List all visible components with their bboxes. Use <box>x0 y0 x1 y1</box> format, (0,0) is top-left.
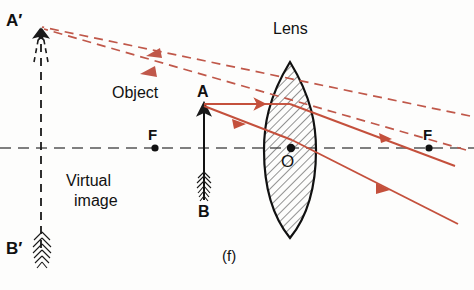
virtual-ray-lower-arrowhead <box>140 66 157 77</box>
virtual-ray-extension-lower <box>44 29 466 150</box>
ray-refracted-lower <box>292 140 458 224</box>
label-image-base: B′ <box>6 240 22 258</box>
label-focus-left: F <box>148 127 157 143</box>
focus-left-dot <box>151 144 158 151</box>
focus-right-dot <box>425 144 432 151</box>
object-arrow-feather <box>197 172 211 201</box>
figure-caption: (f) <box>222 248 236 264</box>
label-object: Object <box>112 84 158 101</box>
lens-ray-diagram: A′ B′ A B Object Lens F F O Virtual imag… <box>0 0 474 290</box>
virtual-image-feather <box>33 232 51 268</box>
label-image-top: A′ <box>6 12 22 30</box>
label-object-base: B <box>198 203 210 220</box>
label-object-top: A <box>197 83 209 100</box>
label-focus-right: F <box>423 127 432 143</box>
optical-center-dot <box>287 144 295 152</box>
label-virtual-image-line1: Virtual <box>66 172 111 189</box>
label-lens: Lens <box>273 20 308 37</box>
diagram-canvas <box>0 0 474 290</box>
label-virtual-image-line2: image <box>74 192 118 209</box>
virtual-ray-extension-upper <box>42 27 470 116</box>
label-optical-center: O <box>281 153 294 171</box>
